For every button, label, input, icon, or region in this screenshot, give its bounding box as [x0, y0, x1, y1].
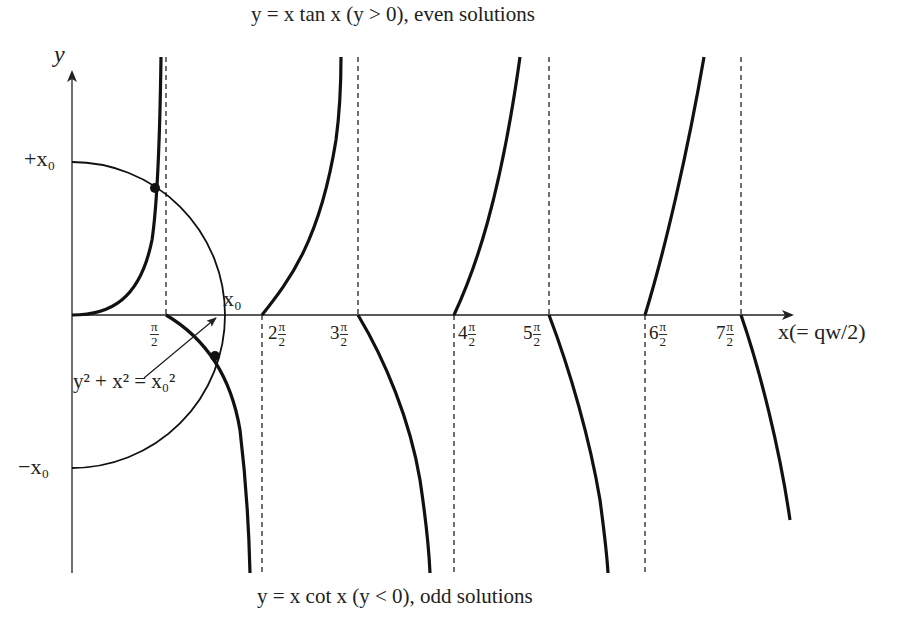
tick-den: 2 — [341, 335, 348, 349]
solution-point-even — [150, 183, 160, 193]
tick-fraction: π2 — [659, 320, 668, 348]
tick-fraction: π2 — [533, 320, 542, 348]
tick-coef: 3 — [330, 322, 340, 343]
tick-7: 7π2 — [716, 320, 734, 348]
tick-num: π — [533, 320, 542, 335]
tan-curves — [72, 57, 704, 315]
bottom-title: y = x cot x (y < 0), odd solutions — [257, 586, 533, 607]
tick-fraction: π2 — [340, 320, 349, 348]
circle-equation: y² + x² = x₀² — [73, 371, 175, 392]
tick-6: 6π2 — [649, 320, 667, 348]
tick-den: 2 — [279, 335, 286, 349]
y-axis-label: y — [54, 42, 65, 66]
tick-fraction: π2 — [468, 320, 477, 348]
tick-5: 5π2 — [523, 320, 541, 348]
tick-num: π — [726, 320, 735, 335]
tick-3: 3π2 — [330, 320, 348, 348]
tick-den: 2 — [727, 335, 734, 349]
tick-num: π — [659, 320, 668, 335]
top-title-text: y = x tan x (y > 0), even solutions — [251, 2, 535, 26]
top-title: y = x tan x (y > 0), even solutions — [251, 4, 535, 25]
tick-num: π — [150, 320, 159, 335]
solution-point-odd — [210, 351, 220, 361]
bottom-title-text: y = x cot x (y < 0), odd solutions — [257, 584, 533, 608]
tick-2: 2π2 — [268, 320, 286, 348]
cot-curves — [166, 315, 790, 573]
minus-x0-label: −x₀ — [18, 456, 49, 478]
x0-label: x₀ — [223, 288, 242, 310]
tick-fraction: π2 — [150, 320, 159, 348]
tick-4: 4π2 — [458, 320, 476, 348]
tick-1: π2 — [150, 320, 159, 348]
tick-coef: 6 — [649, 322, 659, 343]
tick-den: 2 — [660, 335, 667, 349]
tick-num: π — [340, 320, 349, 335]
tick-coef: 5 — [523, 322, 533, 343]
tick-fraction: π2 — [726, 320, 735, 348]
tick-fraction: π2 — [278, 320, 287, 348]
tick-den: 2 — [534, 335, 541, 349]
tick-den: 2 — [469, 335, 476, 349]
tick-coef: 7 — [716, 322, 726, 343]
x-axis-label: x(= qw/2) — [778, 321, 866, 343]
diagram-canvas — [0, 0, 903, 627]
plus-x0-label: +x₀ — [24, 148, 55, 170]
tick-coef: 2 — [268, 322, 278, 343]
asymptotes — [166, 57, 741, 575]
tick-num: π — [278, 320, 287, 335]
tick-den: 2 — [151, 335, 158, 349]
tick-num: π — [468, 320, 477, 335]
tick-coef: 4 — [458, 322, 468, 343]
